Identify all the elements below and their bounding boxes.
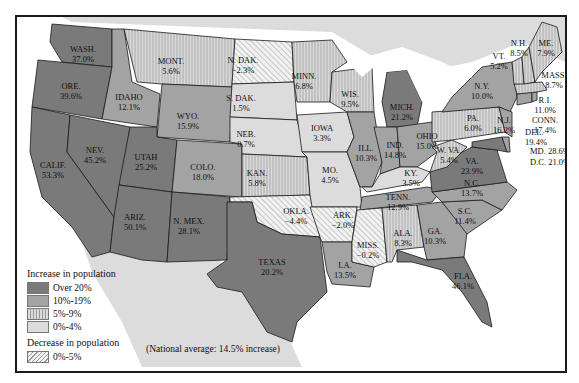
label-nev: NEV.45.2% — [84, 146, 106, 165]
label-ny: N.Y.10.0% — [471, 82, 493, 101]
label-ky: KY.3.5% — [402, 169, 420, 188]
legend-item-5-9: 5%-9% — [27, 307, 119, 320]
label-nc: N.C.13.7% — [461, 179, 483, 198]
legend-item-0-4: 0%-4% — [27, 320, 119, 333]
label-nj: N.J.16.2% — [493, 116, 515, 135]
legend-swatch-decrease — [27, 351, 49, 363]
legend-item-10-19: 10%-19% — [27, 294, 119, 307]
label-ala: ALA.8.3% — [393, 229, 413, 248]
label-nh: N.H.8.5% — [510, 39, 528, 58]
label-ill: ILL.10.3% — [355, 144, 377, 163]
legend-swatch-over20 — [27, 282, 49, 294]
legend: Increase in population Over 20% 10%-19% … — [27, 268, 119, 363]
label-md: MD. 28.6% — [530, 147, 567, 157]
legend-swatch-5-9 — [27, 308, 49, 320]
label-dc: D.C. 21.0% — [530, 158, 567, 168]
legend-increase-title: Increase in population — [27, 268, 119, 279]
label-okla: OKLA.−4.4% — [283, 207, 309, 226]
label-neb: NEB.0.7% — [236, 130, 255, 149]
legend-item-over20: Over 20% — [27, 281, 119, 294]
label-miss: MISS.−0.2% — [357, 241, 380, 260]
label-ndak: N. DAK.−2.3% — [228, 56, 259, 75]
label-ark: ARK.−2.0% — [332, 211, 355, 230]
label-pa: PA.6.0% — [464, 114, 482, 133]
label-ariz: ARIZ.50.1% — [124, 213, 146, 232]
label-wis: WIS.9.5% — [341, 90, 359, 109]
label-sdak: S. DAK.1.5% — [226, 94, 256, 113]
label-wyo: WYO.15.9% — [177, 112, 199, 131]
label-me: ME.7.9% — [537, 39, 555, 58]
national-average-note: (National average: 14.5% increase) — [146, 344, 280, 354]
label-ind: IND.14.8% — [384, 141, 406, 160]
label-idaho: IDAHO12.1% — [115, 93, 142, 112]
label-mass: MASS.8.7% — [541, 71, 566, 90]
legend-item-decrease: 0%-5% — [27, 350, 119, 363]
label-nmex: N. MEX.28.1% — [173, 217, 204, 236]
label-ri: R.I.11.0% — [534, 96, 556, 115]
label-wva: W. VA.5.4% — [437, 146, 462, 165]
label-wash: WASH.37.0% — [70, 45, 96, 64]
label-la: LA.13.5% — [334, 261, 356, 280]
label-mo: MO.4.5% — [321, 166, 339, 185]
legend-swatch-10-19 — [27, 295, 49, 307]
label-fla: FLA.46.1% — [452, 272, 474, 291]
label-ga: GA.10.3% — [424, 227, 446, 246]
label-ohio: OHIO15.0% — [416, 132, 438, 151]
label-kan: KAN.5.8% — [247, 169, 268, 188]
label-mich: MICH.21.2% — [390, 103, 414, 122]
label-texas: TEXAS20.2% — [258, 258, 285, 277]
label-colo: COLO.18.0% — [190, 163, 215, 182]
label-vt: VT.5.2% — [490, 52, 508, 71]
label-conn: CONN.17.4% — [532, 116, 558, 135]
legend-swatch-0-4 — [27, 321, 49, 333]
legend-decrease-title: Decrease in population — [27, 337, 119, 348]
label-minn: MINN.6.8% — [292, 72, 317, 91]
label-utah: UTAH25.2% — [135, 153, 158, 172]
label-iowa: IOWA3.3% — [311, 124, 333, 143]
label-mont: MONT.5.6% — [158, 57, 185, 76]
label-ore: ORE.39.6% — [60, 82, 82, 101]
label-sc: S.C.11.4% — [454, 207, 476, 226]
label-calif: CALIF.53.3% — [40, 161, 66, 180]
label-tenn: TENN.12.9% — [386, 193, 411, 212]
label-va: VA.23.9% — [461, 157, 483, 176]
